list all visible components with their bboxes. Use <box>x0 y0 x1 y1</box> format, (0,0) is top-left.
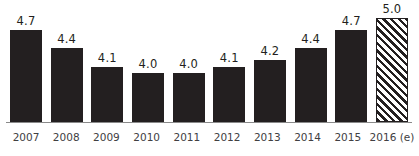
bar-group-2013: 4.2 <box>250 0 290 122</box>
x-label-2007: 2007 <box>6 126 46 148</box>
x-label-2014: 2014 <box>288 126 328 148</box>
bar-value-label: 4.4 <box>57 34 76 46</box>
bar-value-label: 5.0 <box>382 4 401 16</box>
bar-value-label: 4.0 <box>139 59 158 71</box>
x-label-2008: 2008 <box>46 126 86 148</box>
bar-2013 <box>254 60 286 122</box>
bar-2016-estimate <box>376 18 408 122</box>
bar-group-2009: 4.1 <box>87 0 127 122</box>
x-label-2009: 2009 <box>86 126 126 148</box>
x-label-2015: 2015 <box>328 126 368 148</box>
bar-value-label: 4.7 <box>17 16 36 28</box>
bar-2015 <box>335 30 367 122</box>
bar-value-label: 4.0 <box>179 59 198 71</box>
bar-2012 <box>213 67 245 122</box>
x-label-2011: 2011 <box>167 126 207 148</box>
bar-group-2007: 4.7 <box>6 0 46 122</box>
x-label-2013: 2013 <box>247 126 287 148</box>
bar-group-2016-estimate: 5.0 <box>372 0 412 122</box>
bar-2010 <box>132 73 164 122</box>
bar-value-label: 4.7 <box>342 16 361 28</box>
bar-2011 <box>173 73 205 122</box>
plot-area: 4.7 4.4 4.1 4.0 4.0 4.1 <box>0 0 419 122</box>
bar-group-2015: 4.7 <box>331 0 371 122</box>
bar-2008 <box>51 48 83 122</box>
bar-group-2010: 4.0 <box>128 0 168 122</box>
bar-value-label: 4.1 <box>220 53 239 65</box>
bar-2014 <box>295 48 327 122</box>
x-axis-line <box>6 122 412 123</box>
bar-2007 <box>10 30 42 122</box>
bar-group-2014: 4.4 <box>291 0 331 122</box>
x-label-2012: 2012 <box>207 126 247 148</box>
x-label-2016-estimate: 2016 (e) <box>368 126 416 148</box>
bar-2009 <box>91 67 123 122</box>
bar-group-2011: 4.0 <box>169 0 209 122</box>
bar-value-label: 4.4 <box>301 34 320 46</box>
bar-group-2008: 4.4 <box>47 0 87 122</box>
bar-group-2012: 4.1 <box>209 0 249 122</box>
x-axis-labels: 2007 2008 2009 2010 2011 2012 2013 2014 … <box>6 126 412 148</box>
bar-chart: 4.7 4.4 4.1 4.0 4.0 4.1 <box>0 0 419 156</box>
bar-value-label: 4.2 <box>260 46 279 58</box>
bar-series: 4.7 4.4 4.1 4.0 4.0 4.1 <box>6 0 412 122</box>
x-label-2010: 2010 <box>127 126 167 148</box>
bar-value-label: 4.1 <box>98 53 117 65</box>
